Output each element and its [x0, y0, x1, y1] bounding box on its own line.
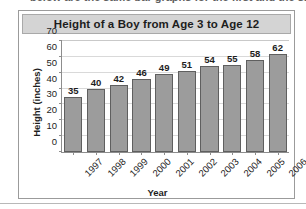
bar-value-label: 54 — [198, 54, 221, 65]
y-tick-label: 20 — [46, 104, 57, 115]
bar-value-label: 55 — [221, 53, 244, 64]
x-tick-label: 2000 — [150, 156, 173, 179]
bar-slot: 49 — [153, 41, 176, 152]
bar-slot: 35 — [62, 41, 85, 152]
page-bottom-rule — [0, 203, 306, 204]
x-tick-label: 2004 — [241, 156, 264, 179]
x-tick-label: 1997 — [82, 156, 105, 179]
x-tick-mark — [96, 152, 97, 155]
bars-layer: 35404246495154555862 — [62, 41, 289, 152]
x-tick-mark — [232, 152, 233, 155]
bar[interactable] — [223, 65, 241, 152]
bar[interactable] — [155, 74, 173, 152]
y-tick-label: 30 — [46, 88, 57, 99]
bar-slot: 54 — [198, 41, 221, 152]
bar[interactable] — [246, 60, 264, 152]
bar[interactable] — [87, 89, 105, 152]
bar-slot: 46 — [130, 41, 153, 152]
x-tick-label: 2003 — [218, 156, 241, 179]
y-tick-label: 10 — [46, 120, 57, 131]
x-tick-label: 1998 — [105, 156, 128, 179]
bar[interactable] — [64, 97, 82, 153]
bar-value-label: 49 — [153, 62, 176, 73]
x-tick-label: 2001 — [173, 156, 196, 179]
x-tick-mark — [141, 152, 142, 155]
x-tick-label: 1999 — [128, 156, 151, 179]
bar-slot: 51 — [176, 41, 199, 152]
y-tick-label: 40 — [46, 72, 57, 83]
x-tick-mark — [119, 152, 120, 155]
chart-title-band: Height of a Boy from Age 3 to Age 12 — [22, 14, 291, 34]
x-tick-label: 2005 — [264, 156, 287, 179]
bar-value-label: 46 — [130, 67, 153, 78]
bar-value-label: 42 — [107, 73, 130, 84]
y-axis-title: Height (inches) — [31, 48, 42, 158]
y-tick-label: 70 — [46, 25, 57, 36]
x-tick-mark — [255, 152, 256, 155]
x-tick-mark — [187, 152, 188, 155]
clipped-top-text-strip: below are the same bar graphs for the fi… — [0, 0, 306, 7]
x-tick-label: 2002 — [196, 156, 219, 179]
x-tick-mark — [164, 152, 165, 155]
bar[interactable] — [178, 71, 196, 152]
bar-value-label: 58 — [244, 48, 267, 59]
bar[interactable] — [110, 85, 128, 152]
x-axis-title: Year — [19, 187, 296, 198]
bar-slot: 62 — [266, 41, 289, 152]
x-tick-mark — [210, 152, 211, 155]
chart-title: Height of a Boy from Age 3 to Age 12 — [54, 18, 259, 30]
bar-value-label: 40 — [85, 77, 108, 88]
y-tick-label: 60 — [46, 40, 57, 51]
bar[interactable] — [269, 54, 287, 152]
clipped-sentence-fragment: below are the same bar graphs for the fi… — [30, 0, 306, 3]
bar[interactable] — [200, 66, 218, 152]
bar-value-label: 51 — [176, 59, 199, 70]
y-tick-label: 0 — [52, 136, 57, 147]
bar-slot: 58 — [244, 41, 267, 152]
x-tick-label: 2006 — [287, 156, 306, 179]
bar-value-label: 35 — [62, 85, 85, 96]
bar-slot: 42 — [107, 41, 130, 152]
bar[interactable] — [132, 79, 150, 152]
y-tick-label: 50 — [46, 56, 57, 67]
chart-panel: Height of a Boy from Age 3 to Age 12 Hei… — [18, 10, 295, 199]
bar-slot: 55 — [221, 41, 244, 152]
x-tick-mark — [73, 152, 74, 155]
bar-value-label: 62 — [266, 42, 289, 53]
bar-slot: 40 — [85, 41, 108, 152]
plot-area: 706050403020100 35404246495154555862 199… — [61, 41, 289, 153]
x-tick-mark — [278, 152, 279, 155]
